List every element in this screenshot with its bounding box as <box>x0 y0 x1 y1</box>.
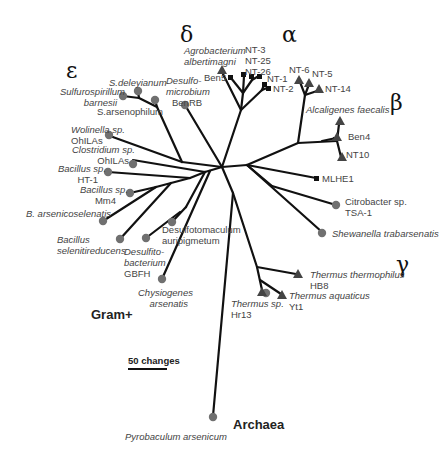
marker-ben4 <box>332 132 342 141</box>
taxon-label-shewanella: Shewanella trabarsenatis <box>332 228 439 239</box>
taxon-label-s-arsenophilum: S.arsenophilum <box>97 106 163 117</box>
taxon-label-nt6: NT-6 <box>289 64 310 75</box>
marker-alcaligenes <box>335 116 345 125</box>
taxon-label-ben4: Ben4 <box>348 131 370 142</box>
taxon-label-mlhe1: MLHE1 <box>322 173 354 184</box>
marker-shewanella <box>318 229 326 237</box>
taxon-label-thermus-hr13: Thermus sp. Hr13 <box>231 298 284 320</box>
taxon-label-citrobacter: Citrobacter sp. TSA-1 <box>345 196 407 218</box>
taxon-label-alcaligenes: Alcaligenes faecalis <box>306 104 389 115</box>
taxon-label-nt2: NT-2 <box>273 83 294 94</box>
clade-label-beta: β <box>390 92 403 114</box>
marker-citrobacter <box>332 201 340 209</box>
scale-bar-label: 50 changes <box>128 355 180 366</box>
marker-nt5 <box>304 78 314 87</box>
taxon-label-bacillus-selenitireducens: Bacillus selenitireducens <box>57 234 126 256</box>
marker-pyrobaculum <box>209 413 217 421</box>
taxon-label-desulfitobacterium: Desulfito- bacterium GBFH <box>124 246 166 279</box>
clade-label-delta: δ <box>180 24 193 46</box>
taxon-label-ben5: Ben5 <box>204 72 226 83</box>
marker-nt6 <box>294 75 304 84</box>
clade-label-epsilon: ε <box>66 60 77 82</box>
taxon-label-desulfotomaculum: Desulfotomaculum auripigmetum <box>162 224 241 246</box>
marker-nt14 <box>314 84 324 93</box>
scale-bar <box>128 368 167 370</box>
taxon-label-bacillus-ht1: Bacillus sp. HT-1 <box>58 163 104 185</box>
marker-s-arsenophilum <box>151 96 159 104</box>
taxon-label-chrysiogenes: Chysiogenes arsenatis <box>138 287 188 309</box>
clade-label-alpha: α <box>282 24 297 46</box>
taxon-label-sulfurospirillum: Sulfurospirillum barnesii <box>60 86 117 108</box>
taxon-label-wolinella: Wolinella sp. OhILAs <box>71 124 125 146</box>
taxon-label-nt5: NT-5 <box>312 68 333 79</box>
marker-mlhe1 <box>314 176 319 181</box>
taxon-label-agrobacterium: Agrobacterium albertimagni <box>184 45 246 67</box>
taxon-label-b-arsenicoselenatis: B. arsenicoselenatis <box>26 208 111 219</box>
taxon-label-nt10: NT10 <box>346 149 369 160</box>
marker-clostridium <box>129 160 137 168</box>
group-label-gram-positive: Gram+ <box>91 307 133 322</box>
marker-ben5 <box>228 75 233 80</box>
taxon-label-thermus-aquaticus: Thermus aquaticus Yt1 <box>289 290 370 312</box>
taxon-label-nt14: NT-14 <box>325 83 351 94</box>
taxon-label-bacillus-mm4: Bacillus sp. Mm4 <box>80 184 126 206</box>
taxon-label-pyrobaculum: Pyrobaculum arsenicum <box>125 431 227 442</box>
group-label-archaea: Archaea <box>233 417 284 432</box>
taxon-label-thermus-thermophilus: Thermus thermophilus HB8 <box>310 269 405 291</box>
marker-desulfitobacterium <box>142 234 150 242</box>
marker-nt2 <box>266 86 271 91</box>
marker-s-deleyianum <box>134 87 142 95</box>
